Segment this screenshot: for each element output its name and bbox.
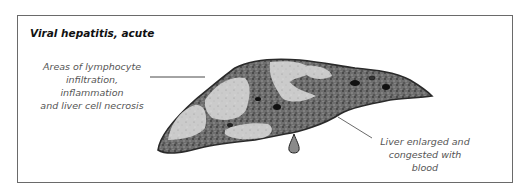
liver-illustration [0,0,530,193]
leader-line-enlarged [338,117,372,138]
gallbladder-icon [289,134,299,153]
